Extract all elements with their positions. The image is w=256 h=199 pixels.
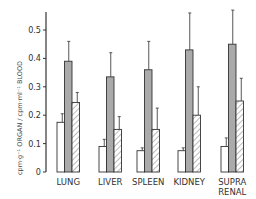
x-axis-labels: LUNGLIVERSPLEENKIDNEYSUPRARENAL [57,177,247,197]
x-category-label: SUPRA [218,177,246,187]
x-category-label: LUNG [57,177,80,187]
bar [72,102,80,172]
bar-group-spleen [137,41,160,172]
bar [99,146,107,172]
bar-group-liver [99,53,122,172]
y-axis-label: cpm·g⁻¹ ORGAN / cpm·ml⁻¹ BLOOD [16,61,24,175]
bar [137,151,145,172]
bar [114,129,122,172]
x-category-label: SPLEEN [132,177,164,187]
bar [65,61,73,172]
bar-chart: 00.10.20.30.40.5 LUNGLIVERSPLEENKIDNEYSU… [0,0,256,199]
x-category-label: LIVER [98,177,122,187]
bar [186,50,194,172]
bar [229,44,237,172]
bar [178,151,186,172]
bar [107,77,115,172]
bar-group-supra-renal [221,10,244,172]
y-tick-label: 0 [36,167,41,177]
bar [221,146,229,172]
y-tick-label: 0.4 [28,53,41,63]
bar-group-lung [57,41,80,172]
y-axis: 00.10.20.30.40.5 [28,12,46,177]
bar [193,115,201,172]
x-category-label: RENAL [218,187,246,197]
bar [236,101,244,172]
y-tick-label: 0.1 [28,139,41,149]
bar [145,70,153,172]
bars [57,10,244,172]
bar [152,129,160,172]
bar [57,122,65,172]
x-category-label: KIDNEY [173,177,205,187]
y-tick-label: 0.2 [28,110,41,120]
y-tick-label: 0.5 [28,25,41,35]
bar-group-kidney [178,13,201,172]
y-tick-label: 0.3 [28,82,41,92]
